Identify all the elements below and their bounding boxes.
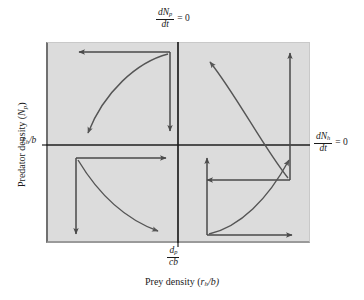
x-tick-numerator: dp (167, 246, 179, 258)
predator-isocline-numerator: dNp (156, 8, 174, 20)
x-axis-title-text: Prey density ( (145, 276, 201, 287)
y-axis-title: Predator density (Np) (16, 60, 27, 230)
prey-isocline-numerator: dNh (314, 132, 332, 144)
x-tick-fraction: dp cb (167, 246, 180, 268)
y-axis-title-var: N (16, 109, 27, 116)
prey-isocline-denominator: dt (317, 144, 328, 154)
prey-isocline-equals: = 0 (335, 138, 347, 148)
x-tick-denominator: cb (167, 258, 180, 268)
y-axis-title-tail: ) (16, 102, 27, 105)
x-axis-title: Prey density (rh/b) (0, 276, 364, 287)
predator-isocline-label: dNp dt = 0 (156, 8, 190, 30)
predator-isocline-equals: = 0 (177, 14, 189, 24)
plot-panel (46, 42, 310, 243)
prey-isocline-label: dNh dt = 0 (314, 132, 348, 154)
y-axis-title-sub: p (21, 106, 28, 109)
y-axis-title-text: Predator density ( (16, 116, 27, 187)
predator-isocline-denominator: dt (159, 20, 170, 30)
prey-isocline-fraction: dNh dt (314, 132, 332, 154)
x-axis-tick-label: dp cb (167, 246, 180, 268)
phase-plane-figure: dNp dt = 0 dNh dt = 0 dp cb rh/b Prey de… (0, 0, 364, 300)
predator-isocline-fraction: dNp dt (156, 8, 174, 30)
x-axis-title-tail: /b) (208, 276, 219, 287)
